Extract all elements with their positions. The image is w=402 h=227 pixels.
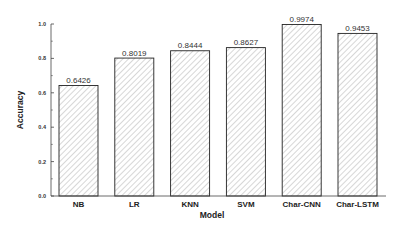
x-axis-title: Model xyxy=(200,210,225,220)
bar-value-label: 0.9974 xyxy=(289,15,314,24)
x-category-label: Char-LSTM xyxy=(336,200,379,209)
x-category-label: LR xyxy=(129,200,140,209)
bar-lr: 0.8019LR xyxy=(115,49,154,209)
x-category-label: Char-CNN xyxy=(283,200,321,209)
bar-rect xyxy=(226,48,265,196)
y-tick-label: 0.6 xyxy=(38,90,46,96)
y-tick-label: 0.4 xyxy=(38,124,47,130)
bar-rect xyxy=(59,85,98,196)
bar-value-label: 0.8444 xyxy=(178,41,203,50)
bar-value-label: 0.6426 xyxy=(66,76,91,85)
bar-knn: 0.8444KNN xyxy=(171,41,210,209)
bar-value-label: 0.8627 xyxy=(234,38,259,47)
bar-rect xyxy=(338,33,377,196)
x-category-label: NB xyxy=(73,200,85,209)
bar-char-lstm: 0.9453Char-LSTM xyxy=(336,24,379,209)
plot-area: 0.6426NB0.8019LR0.8444KNN0.8627SVM0.9974… xyxy=(59,15,379,209)
bar-rect xyxy=(282,24,321,196)
bar-value-label: 0.8019 xyxy=(122,49,147,58)
y-axis: 0.00.20.40.60.81.0 xyxy=(38,21,54,199)
y-axis-title: Accuracy xyxy=(15,91,25,130)
bar-svm: 0.8627SVM xyxy=(226,38,265,209)
x-category-label: KNN xyxy=(181,200,199,209)
bar-char-cnn: 0.9974Char-CNN xyxy=(282,15,321,209)
y-tick-label: 1.0 xyxy=(38,21,46,27)
y-tick-label: 0.0 xyxy=(38,193,46,199)
bar-rect xyxy=(115,58,154,196)
bar-nb: 0.6426NB xyxy=(59,76,98,209)
y-tick-label: 0.8 xyxy=(38,55,46,61)
bar-rect xyxy=(171,51,210,196)
x-category-label: SVM xyxy=(237,200,255,209)
bar-chart: 0.6426NB0.8019LR0.8444KNN0.8627SVM0.9974… xyxy=(0,0,402,227)
bar-value-label: 0.9453 xyxy=(345,24,370,33)
y-tick-label: 0.2 xyxy=(38,159,46,165)
